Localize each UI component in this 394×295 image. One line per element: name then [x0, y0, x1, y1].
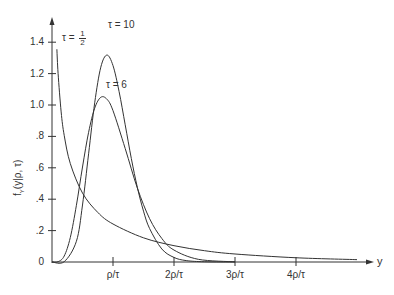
x-axis-arrow-icon [366, 260, 374, 265]
x-tick-label: 3ρ/τ [226, 270, 244, 280]
y-tick-label: .8 [18, 131, 44, 141]
y-tick-label: .2 [18, 226, 44, 236]
curve-label-tau-10: τ = 10 [108, 20, 134, 30]
curve-series-0 [52, 55, 235, 263]
y-tick-label: 1.0 [18, 100, 44, 110]
y-axis-label: fY(y|ρ, τ) [12, 160, 25, 196]
x-axis-label: y [377, 256, 383, 267]
x-tick-label: 2ρ/τ [165, 270, 183, 280]
y-tick-label: 0 [18, 257, 44, 267]
y-tick-label: 1.4 [18, 37, 44, 47]
curve-label-tau-half: τ = 12 [62, 30, 86, 47]
y-axis-arrow-icon [50, 17, 55, 25]
curve-series-2 [57, 49, 357, 259]
curves [52, 49, 357, 263]
y-tick-label: 1.2 [18, 69, 44, 79]
y-axis [50, 17, 55, 263]
x-tick-label: 4ρ/τ [287, 270, 305, 280]
curve-label-tau-6: τ = 6 [106, 80, 127, 90]
density-chart [0, 0, 394, 295]
x-tick-label: ρ/τ [107, 270, 119, 280]
